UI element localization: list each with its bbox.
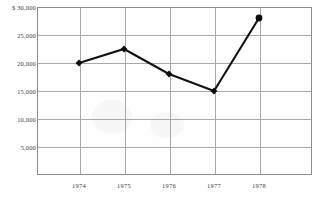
gridline-horizontal-10000 [38, 119, 311, 120]
x-axis-label-1974: 1974 [56, 182, 102, 189]
x-axis-label-1978: 1978 [236, 182, 282, 189]
gridline-vertical-1974 [80, 8, 81, 174]
y-axis-label-25000: 25,000 [0, 32, 36, 39]
gridline-vertical-1977 [215, 8, 216, 174]
y-axis-label-30000: $ 30,000 [0, 4, 36, 11]
gridline-vertical-1978 [260, 8, 261, 174]
gridline-vertical-1975 [125, 8, 126, 174]
gridline-horizontal-15000 [38, 91, 311, 92]
gridline-horizontal-5000 [38, 147, 311, 148]
y-axis-label-15000: 15,000 [0, 88, 36, 95]
x-axis-label-1975: 1975 [101, 182, 147, 189]
y-axis-label-5000: 5,000 [0, 144, 36, 151]
gridline-horizontal-20000 [38, 63, 311, 64]
gridline-horizontal-25000 [38, 35, 311, 36]
line-chart: $ 30,000 25,000 20,000 15,000 10,000 5,0… [0, 0, 317, 223]
y-axis-label-10000: 10,000 [0, 116, 36, 123]
gridline-vertical-1976 [170, 8, 171, 174]
x-axis-label-1977: 1977 [191, 182, 237, 189]
y-axis-label-20000: 20,000 [0, 60, 36, 67]
x-axis-label-1976: 1976 [146, 182, 192, 189]
plot-area [37, 7, 312, 175]
